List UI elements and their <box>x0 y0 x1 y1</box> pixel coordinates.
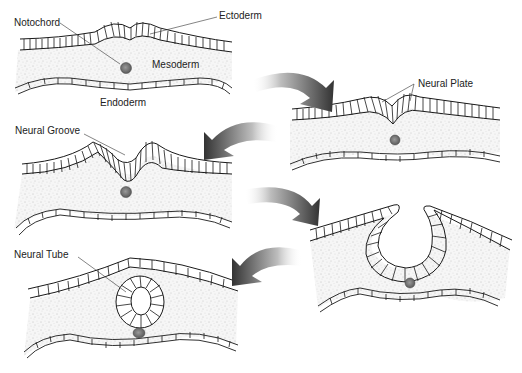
label-endoderm: Endoderm <box>100 98 146 108</box>
label-neural-groove: Neural Groove <box>15 126 80 136</box>
arrow-stage3-to-stage4 <box>244 187 320 226</box>
label-mesoderm: Mesoderm <box>152 60 199 70</box>
stage-3-neural-groove <box>14 134 232 235</box>
neurulation-diagram <box>0 0 522 373</box>
label-neural-plate: Neural Plate <box>418 79 473 89</box>
arrow-stage1-to-stage2 <box>252 73 334 112</box>
label-ectoderm: Ectoderm <box>219 11 262 21</box>
notochord-shape <box>121 63 132 74</box>
arrow-stage4-to-stage5 <box>232 247 302 286</box>
label-notochord: Notochord <box>14 18 60 28</box>
stage-1-germ-layers <box>15 17 232 94</box>
label-neural-tube: Neural Tube <box>14 250 68 260</box>
stage-4-neural-folds <box>310 205 512 312</box>
stage-5-neural-tube <box>24 257 238 358</box>
arrow-stage2-to-stage3 <box>204 122 278 160</box>
